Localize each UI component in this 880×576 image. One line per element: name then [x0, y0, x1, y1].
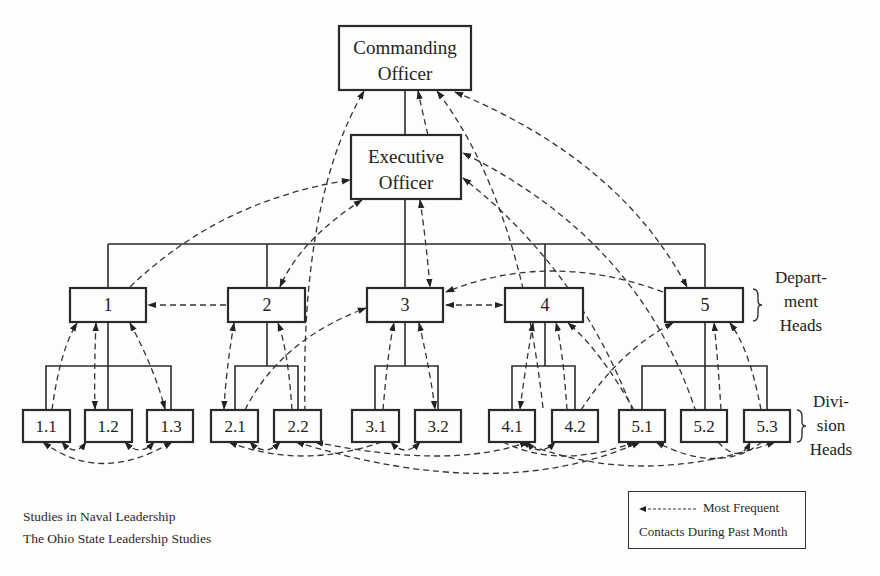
division-boxes: 1.1 1.2 1.3 2.1 2.2 3.1 3.2 4.1 4.2 5.1 … [23, 410, 790, 442]
division-4-2-label: 4.2 [564, 417, 585, 436]
department-2-label: 2 [263, 295, 272, 315]
org-chart-diagram: Commanding Officer Executive Officer 1 2… [0, 0, 880, 576]
division-heads-line3: Heads [810, 440, 852, 459]
division-2-2-label: 2.2 [287, 417, 308, 436]
commanding-officer-box: Commanding Officer [339, 26, 471, 90]
legend-box: Most Frequent Contacts During Past Month [628, 491, 806, 549]
division-3-1-label: 3.1 [365, 417, 386, 436]
division-1-3-label: 1.3 [160, 417, 181, 436]
department-heads-line2: ment [784, 292, 818, 311]
department-heads-line3: Heads [780, 316, 822, 335]
division-5-1-label: 5.1 [631, 417, 652, 436]
division-heads-label: Divi- sion Heads [797, 392, 852, 459]
division-5-3-label: 5.3 [756, 417, 777, 436]
legend-line1: Most Frequent [703, 500, 779, 516]
division-1-2-label: 1.2 [97, 417, 118, 436]
footer-source-line2: The Ohio State Leadership Studies [23, 531, 211, 547]
department-heads-line1: Depart- [775, 268, 827, 287]
division-heads-line2: sion [817, 416, 846, 435]
footer-source-line1: Studies in Naval Leadership [23, 509, 176, 525]
department-1-label: 1 [104, 295, 113, 315]
brace-icon [753, 289, 762, 321]
division-4-1-label: 4.1 [501, 417, 522, 436]
department-5-label: 5 [701, 295, 710, 315]
brace-icon [797, 410, 806, 442]
commanding-officer-label-line2: Officer [378, 63, 433, 84]
division-5-2-label: 5.2 [693, 417, 714, 436]
division-heads-line1: Divi- [813, 392, 849, 411]
division-2-1-label: 2.1 [224, 417, 245, 436]
commanding-officer-label-line1: Commanding [353, 37, 457, 58]
department-heads-label: Depart- ment Heads [753, 268, 827, 335]
division-1-1-label: 1.1 [35, 417, 56, 436]
division-3-2-label: 3.2 [427, 417, 448, 436]
dashed-arrow-icon [639, 502, 699, 516]
executive-officer-label-line1: Executive [368, 146, 444, 167]
legend-line2: Contacts During Past Month [639, 524, 787, 540]
department-4-label: 4 [541, 295, 550, 315]
department-3-label: 3 [401, 295, 410, 315]
executive-officer-box: Executive Officer [351, 135, 461, 199]
executive-officer-label-line2: Officer [379, 172, 434, 193]
